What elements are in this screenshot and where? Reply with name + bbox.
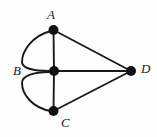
vertex-B (49, 66, 59, 76)
edge-A-D (54, 30, 132, 71)
graph-figure: A B C D (0, 0, 157, 137)
vertex-label-a: A (47, 8, 55, 21)
vertex-D (126, 66, 136, 76)
vertex-C (49, 106, 59, 116)
vertex-A (49, 25, 59, 35)
vertex-label-b: B (13, 64, 21, 77)
edge-B-C-straight (54, 71, 55, 111)
edge-B-C-curved (22, 72, 51, 111)
edge-A-B-curved (22, 31, 51, 71)
vertex-label-c: C (61, 116, 70, 129)
graph-drawing-canvas (0, 0, 157, 137)
edge-A-B-straight (54, 30, 55, 71)
vertex-label-d: D (141, 62, 150, 75)
edge-C-D (54, 71, 132, 111)
